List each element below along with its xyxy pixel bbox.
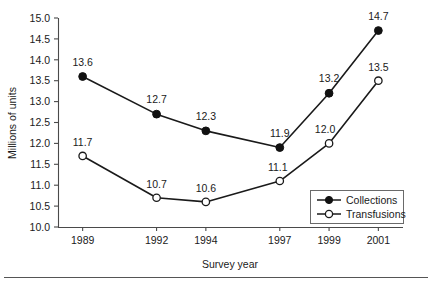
- y-axis-tick-label: 10.5: [30, 200, 51, 212]
- x-axis-tick-label: 1997: [268, 234, 292, 246]
- y-axis-tick-label: 11.0: [30, 179, 50, 191]
- data-label-collections-1999: 13.2: [319, 72, 340, 84]
- data-point-collections-1989: [79, 73, 87, 81]
- y-axis-tick-label: 14.0: [30, 54, 51, 66]
- y-axis-tick-label: 14.5: [30, 33, 51, 45]
- data-label-transfusions-1997: 11.1: [268, 161, 288, 173]
- y-axis-tick-label: 12.5: [30, 116, 51, 128]
- data-point-transfusions-1989: [79, 152, 86, 159]
- data-point-transfusions-1997: [276, 177, 283, 184]
- data-point-collections-1992: [153, 110, 161, 118]
- data-point-collections-1999: [325, 89, 333, 97]
- y-axis-tick-label: 11.5: [30, 158, 50, 170]
- x-axis-tick-label: 1989: [71, 234, 95, 246]
- x-axis-title: Survey year: [202, 258, 259, 270]
- x-axis-tick-label: 2001: [367, 234, 391, 246]
- data-point-collections-1994: [202, 127, 210, 135]
- y-axis-title: Millions of units: [6, 87, 18, 159]
- data-point-collections-1997: [276, 144, 284, 152]
- y-axis-ticks: [54, 18, 58, 227]
- y-axis-tick-label: 15.0: [30, 12, 51, 24]
- data-label-transfusions-1999: 12.0: [315, 123, 336, 135]
- chart-legend: Collections Transfusions: [311, 191, 406, 224]
- x-axis-tick-label: 1999: [317, 234, 341, 246]
- data-label-collections-1989: 13.6: [72, 56, 93, 68]
- x-axis-tick-label: 1994: [194, 234, 218, 246]
- data-point-transfusions-1992: [153, 194, 160, 201]
- data-label-transfusions-1992: 10.7: [146, 178, 167, 190]
- series-lines: [83, 31, 379, 202]
- data-label-transfusions-1994: 10.6: [196, 182, 217, 194]
- x-axis-tick-label: 1992: [145, 234, 169, 246]
- figure-container: 10.010.511.011.512.012.513.013.514.014.5…: [0, 0, 432, 284]
- y-axis-tick-label: 13.5: [30, 74, 51, 86]
- legend-label-transfusions: Transfusions: [346, 208, 406, 220]
- legend-label-collections: Collections: [346, 194, 397, 206]
- data-label-transfusions-2001: 13.5: [368, 61, 389, 73]
- data-label-collections-1994: 12.3: [196, 110, 217, 122]
- y-axis-tick-label: 12.0: [30, 137, 51, 149]
- y-axis-tick-labels: 10.010.511.011.512.012.513.013.514.014.5…: [30, 12, 51, 233]
- data-point-transfusions-2001: [375, 77, 382, 84]
- data-label-collections-1992: 12.7: [146, 93, 167, 105]
- point-value-labels: 13.612.712.311.913.214.711.710.710.611.1…: [72, 10, 388, 194]
- y-axis-tick-label: 10.0: [30, 221, 51, 233]
- y-axis-tick-label: 13.0: [30, 95, 51, 107]
- legend-marker-transfusions: [325, 210, 332, 217]
- legend-marker-collections: [325, 196, 332, 203]
- x-axis-tick-labels: 198919921994199719992001: [71, 234, 390, 246]
- data-label-collections-2001: 14.7: [368, 10, 389, 22]
- data-label-collections-1997: 11.9: [270, 127, 290, 139]
- line-chart: 10.010.511.011.512.012.513.013.514.014.5…: [0, 0, 432, 284]
- data-point-transfusions-1994: [202, 198, 209, 205]
- data-point-collections-2001: [374, 27, 382, 35]
- data-point-transfusions-1999: [325, 140, 332, 147]
- data-label-transfusions-1989: 11.7: [73, 136, 93, 148]
